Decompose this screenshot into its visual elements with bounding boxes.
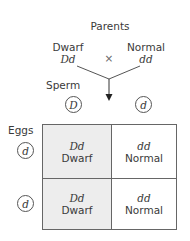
punnett-cell: Dd Dwarf xyxy=(43,178,111,229)
egg-allele-1: d xyxy=(17,142,34,159)
punnett-cell: Dd Dwarf xyxy=(43,125,111,178)
eggs-label: Eggs xyxy=(8,124,33,136)
sperm-allele-2: d xyxy=(135,96,152,113)
punnett-cell: dd Normal xyxy=(111,125,176,178)
egg-allele-2: d xyxy=(17,195,34,212)
sperm-label: Sperm xyxy=(46,79,80,91)
sperm-allele-1: D xyxy=(65,96,82,113)
punnett-cell: dd Normal xyxy=(111,178,176,229)
punnett-square: Dd Dwarf dd Normal Dd Dwarf dd Normal xyxy=(42,124,177,230)
